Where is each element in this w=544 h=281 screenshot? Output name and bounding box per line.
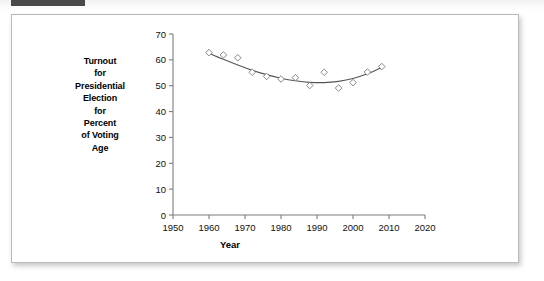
x-axis-tick-label: 2010 [378, 222, 399, 233]
x-axis-tick-label: 1990 [306, 222, 327, 233]
y-axis-tick-label: 60 [155, 54, 166, 65]
y-axis-tick-label: 40 [155, 106, 166, 117]
x-axis-title-text: Year [220, 239, 240, 250]
x-axis-tick-label: 2000 [342, 222, 363, 233]
top-tab-marker [11, 0, 85, 6]
chart-svg: 0102030405060701950196019701980199020002… [12, 15, 520, 264]
data-point-layer [206, 49, 385, 91]
data-point-marker [235, 54, 242, 61]
y-axis-tick-label: 0 [161, 210, 166, 221]
tick-label-layer: 0102030405060701950196019701980199020002… [155, 29, 435, 233]
x-axis-title: Year [12, 239, 520, 250]
data-point-marker [321, 69, 328, 76]
data-point-marker [350, 79, 357, 86]
axis-layer [169, 34, 425, 219]
x-axis-tick-label: 2020 [414, 222, 435, 233]
x-axis-tick-label: 1980 [270, 222, 291, 233]
y-axis-tick-label: 50 [155, 80, 166, 91]
data-point-marker [307, 82, 314, 89]
data-point-marker [278, 76, 285, 83]
y-axis-tick-label: 10 [155, 184, 166, 195]
y-axis-tick-label: 30 [155, 132, 166, 143]
window-top-strip [0, 0, 544, 11]
data-point-marker [206, 49, 213, 56]
y-axis-tick-label: 70 [155, 29, 166, 40]
chart-plot-area: Turnout for Presidential Election for Pe… [12, 15, 520, 264]
x-axis-tick-label: 1950 [162, 222, 183, 233]
chart-card: Turnout for Presidential Election for Pe… [11, 14, 519, 263]
x-axis-tick-label: 1970 [234, 222, 255, 233]
y-axis-tick-label: 20 [155, 158, 166, 169]
data-point-marker [335, 85, 342, 92]
data-point-marker [220, 52, 227, 59]
x-axis-tick-label: 1960 [198, 222, 219, 233]
